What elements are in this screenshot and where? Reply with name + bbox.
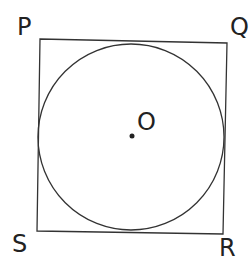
label-r: R — [219, 234, 236, 262]
label-o: O — [137, 108, 156, 136]
diagram-canvas: P Q S R O — [0, 0, 251, 266]
label-q: Q — [230, 13, 249, 41]
label-s: S — [12, 230, 27, 258]
geometry-figure: P Q S R O — [0, 0, 251, 266]
center-point-o — [130, 134, 135, 139]
label-p: P — [17, 13, 31, 41]
